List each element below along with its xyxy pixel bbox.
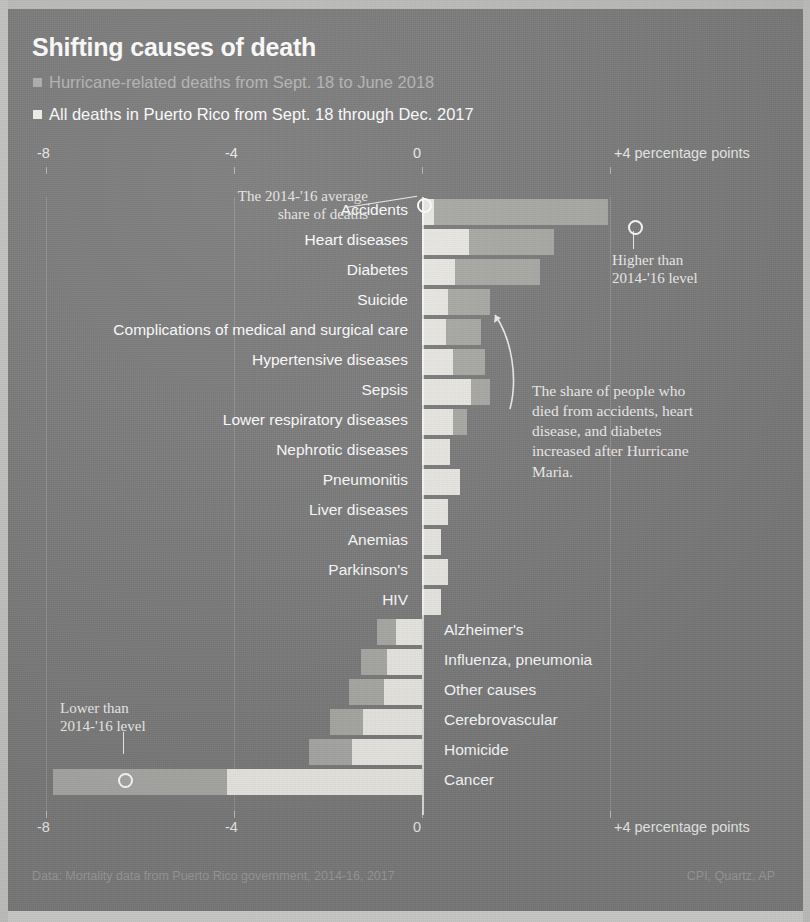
axis-tick-label-4: +4 percentage points — [614, 145, 750, 161]
annotation-line: died from accidents, heart — [532, 401, 747, 421]
legend-label-hurricane-related: Hurricane-related deaths from Sept. 18 t… — [49, 73, 434, 92]
zero-axis-line — [422, 197, 424, 815]
bar-row: Liver diseases — [8, 497, 803, 527]
category-label: Heart diseases — [8, 231, 408, 249]
axis-tick-label-4: +4 percentage points — [614, 819, 750, 835]
gridline — [610, 197, 611, 815]
category-label: Parkinson's — [8, 561, 408, 579]
page-title: Shifting causes of death — [32, 33, 316, 62]
category-label: Diabetes — [8, 261, 408, 279]
bar-row: Parkinson's — [8, 557, 803, 587]
annotation-marker-lower-than — [118, 773, 133, 788]
page-edge-top — [0, 0, 810, 9]
category-label: Liver diseases — [8, 501, 408, 519]
annotation-line: 2014-'16 level — [60, 717, 250, 735]
category-label: Alzheimer's — [444, 621, 524, 639]
category-label: Other causes — [444, 681, 536, 699]
bar-all-deaths — [396, 619, 422, 645]
axis-tick-label-0: 0 — [413, 145, 421, 161]
legend-swatch-hurricane-related — [33, 78, 42, 87]
legend-swatch-all-deaths — [33, 110, 42, 119]
bar-all-deaths — [422, 259, 455, 285]
axis-tick-label-0: 0 — [413, 819, 421, 835]
page-edge-right — [803, 0, 810, 922]
axis-tick-label-neg4: -4 — [225, 819, 238, 835]
category-label: Homicide — [444, 741, 509, 759]
category-label: Suicide — [8, 291, 408, 309]
annotation-line: The share of people who — [532, 381, 747, 401]
bar-row: Influenza, pneumonia — [8, 647, 803, 677]
annotation-line: The 2014-'16 average — [158, 187, 368, 205]
bar-all-deaths — [422, 499, 448, 525]
annotation-marker-higher-than — [628, 220, 643, 235]
legend-item-all-deaths: All deaths in Puerto Rico from Sept. 18 … — [33, 105, 474, 124]
annotation-line: increased after Hurricane — [532, 441, 747, 461]
legend-label-all-deaths: All deaths in Puerto Rico from Sept. 18 … — [49, 105, 474, 124]
bar-row: Accidents — [8, 197, 803, 227]
bar-row: Alzheimer's — [8, 617, 803, 647]
bar-all-deaths — [384, 679, 422, 705]
annotation-leader-lower-than — [123, 732, 124, 754]
annotation-line: Higher than — [612, 251, 792, 269]
axis-tick-label-neg8: -8 — [37, 145, 50, 161]
category-label: Pneumonitis — [8, 471, 408, 489]
bar-row: Homicide — [8, 737, 803, 767]
axis-tickmark — [46, 167, 47, 174]
infographic-page: Shifting causes of death Hurricane-relat… — [0, 0, 810, 922]
axis-tick-label-neg8: -8 — [37, 819, 50, 835]
annotation-higher-than: Higher than2014-'16 level — [612, 251, 792, 288]
bar-all-deaths — [387, 649, 422, 675]
bar-all-deaths — [363, 709, 422, 735]
category-label: Anemias — [8, 531, 408, 549]
category-label: Complications of medical and surgical ca… — [8, 321, 408, 339]
page-edge-bottom — [0, 911, 810, 922]
category-label: Nephrotic diseases — [8, 441, 408, 459]
axis-tickmark — [234, 167, 235, 174]
axis-top: -8-40+4 percentage points — [8, 145, 803, 169]
bar-all-deaths — [422, 469, 460, 495]
chart-panel: Shifting causes of death Hurricane-relat… — [8, 9, 803, 911]
annotation-line: disease, and diabetes — [532, 421, 747, 441]
category-label: Cancer — [444, 771, 494, 789]
bar-all-deaths — [422, 529, 441, 555]
category-label: HIV — [8, 591, 408, 609]
footer-credit: CPI, Quartz, AP — [687, 869, 775, 883]
axis-bottom: -8-40+4 percentage points — [8, 817, 803, 841]
footer-data-note: Data: Mortality data from Puerto Rico go… — [32, 869, 395, 883]
axis-tick-label-neg4: -4 — [225, 145, 238, 161]
category-label: Cerebrovascular — [444, 711, 558, 729]
category-label: Lower respiratory diseases — [8, 411, 408, 429]
bar-row: HIV — [8, 587, 803, 617]
annotation-line: 2014-'16 level — [612, 269, 792, 287]
bar-all-deaths — [422, 229, 469, 255]
page-edge-left — [0, 0, 8, 922]
annotation-line: Maria. — [532, 462, 747, 482]
category-label: Hypertensive diseases — [8, 351, 408, 369]
annotation-average-share: The 2014-'16 averageshare of deaths — [158, 187, 368, 224]
axis-tickmark — [422, 167, 423, 174]
legend-item-hurricane-related: Hurricane-related deaths from Sept. 18 t… — [33, 73, 434, 92]
bar-all-deaths — [422, 439, 450, 465]
bar-row: Anemias — [8, 527, 803, 557]
annotation-share-increase: The share of people whodied from acciden… — [532, 381, 747, 482]
bar-all-deaths — [422, 589, 441, 615]
annotation-curve-share-increase — [400, 309, 540, 429]
bar-all-deaths — [422, 559, 448, 585]
category-label: Sepsis — [8, 381, 408, 399]
category-label: Influenza, pneumonia — [444, 651, 592, 669]
annotation-lower-than: Lower than2014-'16 level — [60, 699, 250, 736]
annotation-marker-average-share — [417, 198, 432, 213]
axis-tickmark — [610, 167, 611, 174]
bar-all-deaths — [227, 769, 422, 795]
bar-all-deaths — [352, 739, 423, 765]
annotation-line: share of deaths — [158, 205, 368, 223]
bar-hurricane-related — [422, 199, 608, 225]
annotation-line: Lower than — [60, 699, 250, 717]
